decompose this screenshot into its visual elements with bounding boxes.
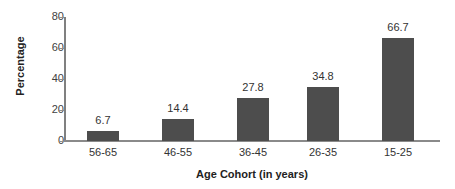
plot-area: 6.756-6514.446-5527.836-4534.826-3566.71… xyxy=(0,0,455,189)
bar-value-label: 66.7 xyxy=(368,21,428,33)
x-axis-title: Age Cohort (in years) xyxy=(64,168,440,181)
bar[interactable] xyxy=(237,98,269,141)
bar-chart: Percentage 020406080 6.756-6514.446-5527… xyxy=(0,0,455,189)
x-tick-label: 56-65 xyxy=(68,146,138,159)
bar[interactable] xyxy=(307,87,339,141)
bar-value-label: 14.4 xyxy=(148,102,208,114)
bar-value-label: 6.7 xyxy=(73,114,133,126)
x-tick-label: 15-25 xyxy=(363,146,433,159)
bar-value-label: 27.8 xyxy=(223,81,283,93)
bar-value-label: 34.8 xyxy=(293,70,353,82)
bar[interactable] xyxy=(382,38,414,141)
bar[interactable] xyxy=(87,131,119,141)
x-tick-label: 46-55 xyxy=(143,146,213,159)
x-tick-label: 26-35 xyxy=(288,146,358,159)
x-tick-label: 36-45 xyxy=(218,146,288,159)
bar[interactable] xyxy=(162,119,194,141)
